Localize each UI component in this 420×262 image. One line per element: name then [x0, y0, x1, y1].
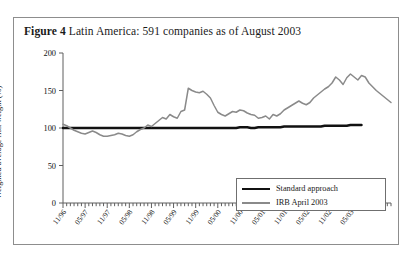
legend-label-standard-approach: Standard approach — [276, 185, 338, 193]
x-tick-label: 11/96 — [51, 207, 68, 226]
chart-svg: 05010015020011/9605/9711/9705/9811/9805/… — [63, 53, 403, 262]
x-tick-label: 11/97 — [95, 207, 112, 226]
legend-item-irb-april-2003: IRB April 2003 — [242, 196, 380, 210]
figure-root: Figure 4 Latin America: 591 companies as… — [0, 0, 420, 262]
x-tick-label: 05/98 — [117, 207, 135, 226]
x-tick-label: 05/99 — [161, 207, 179, 226]
y-tick-label: 100 — [43, 124, 56, 133]
figure-caption-text: Latin America: 591 companies as of Augus… — [69, 25, 301, 37]
y-tick-label: 50 — [48, 162, 56, 171]
figure-caption: Figure 4 Latin America: 591 companies as… — [24, 25, 301, 37]
y-tick-label: 0 — [52, 199, 56, 208]
x-tick-label: 11/98 — [139, 207, 156, 226]
y-tick-label: 150 — [43, 87, 56, 96]
y-tick-label: 200 — [43, 49, 56, 58]
legend-swatch-black-line-icon — [242, 188, 270, 190]
chart-legend: Standard approach IRB April 2003 — [236, 178, 386, 211]
figure-number: Figure 4 — [24, 25, 66, 37]
legend-item-standard-approach: Standard approach — [242, 182, 380, 196]
series-line-standard-approach — [63, 125, 362, 128]
x-tick-label: 05/00 — [205, 207, 223, 226]
x-tick-label: 05/97 — [73, 207, 91, 226]
legend-label-irb-april-2003: IRB April 2003 — [276, 199, 328, 207]
figure-frame: Figure 4 Latin America: 591 companies as… — [13, 17, 399, 245]
legend-swatch-gray-line-icon — [242, 202, 270, 204]
y-axis-label: Weighted average risk weight (%) — [0, 49, 6, 199]
x-tick-label: 11/99 — [183, 207, 200, 226]
